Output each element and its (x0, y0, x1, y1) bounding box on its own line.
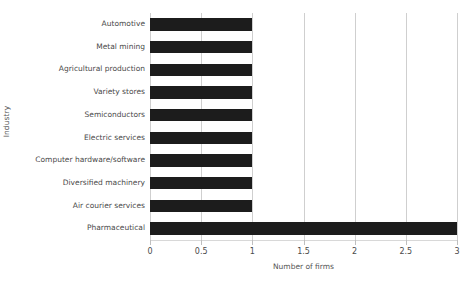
category-label: Variety stores (0, 81, 145, 104)
plot-area: AutomotiveMetal miningAgricultural produ… (150, 13, 457, 240)
bar-row: Semiconductors (150, 104, 457, 127)
category-label: Computer hardware/software (0, 149, 145, 172)
bar-row: Diversified machinery (150, 172, 457, 195)
bar (150, 132, 252, 144)
category-label: Automotive (0, 13, 145, 36)
category-label: Electric services (0, 127, 145, 150)
bar (150, 200, 252, 212)
bar-row: Computer hardware/software (150, 149, 457, 172)
x-tick-3 (457, 240, 458, 245)
gridline-3 (457, 13, 458, 240)
x-tick-label-2.5: 2.5 (399, 247, 412, 256)
x-tick-0.5 (201, 240, 202, 245)
x-tick-1 (252, 240, 253, 245)
x-tick-2.5 (406, 240, 407, 245)
bar-row: Automotive (150, 13, 457, 36)
category-label: Metal mining (0, 36, 145, 59)
x-tick-label-2: 2 (352, 247, 357, 256)
x-tick-label-1: 1 (250, 247, 255, 256)
x-tick-label-3: 3 (454, 247, 459, 256)
x-tick-1.5 (304, 240, 305, 245)
bar (150, 18, 252, 30)
x-tick-0 (150, 240, 151, 245)
bar-row: Agricultural production (150, 58, 457, 81)
bar (150, 86, 252, 98)
category-label: Diversified machinery (0, 172, 145, 195)
x-tick-label-0.5: 0.5 (195, 247, 208, 256)
x-tick-label-0: 0 (147, 247, 152, 256)
category-label: Semiconductors (0, 104, 145, 127)
bar (150, 41, 252, 53)
x-tick-2 (355, 240, 356, 245)
bar (150, 222, 457, 234)
bar-row: Electric services (150, 127, 457, 150)
category-label: Agricultural production (0, 58, 145, 81)
category-label: Pharmaceutical (0, 217, 145, 240)
x-tick-label-1.5: 1.5 (297, 247, 310, 256)
bar-row: Metal mining (150, 36, 457, 59)
bar-row: Pharmaceutical (150, 217, 457, 240)
bar-row: Air courier services (150, 195, 457, 218)
category-label: Air courier services (0, 195, 145, 218)
bar-row: Variety stores (150, 81, 457, 104)
bar (150, 64, 252, 76)
bar (150, 109, 252, 121)
bar (150, 154, 252, 166)
bar (150, 177, 252, 189)
x-axis-title: Number of firms (150, 262, 457, 271)
horizontal-bar-chart: Industry AutomotiveMetal miningAgricultu… (0, 0, 471, 283)
